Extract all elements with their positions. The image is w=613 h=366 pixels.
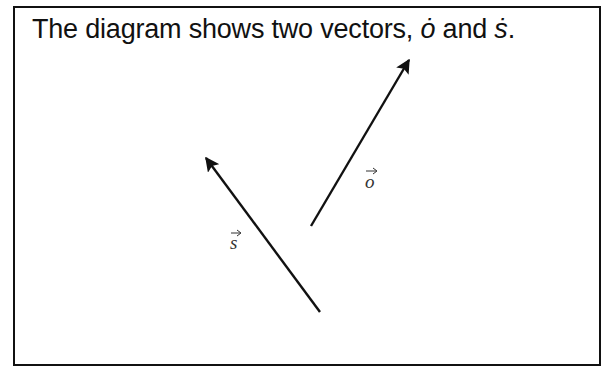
vector-s-label: s — [230, 230, 241, 253]
vector-o-label-text: o — [365, 171, 375, 192]
vector-s-arrow — [206, 158, 320, 312]
vector-o-label: o — [365, 168, 377, 192]
vector-s-label-text: s — [230, 232, 237, 253]
vector-o-arrow — [311, 60, 409, 226]
